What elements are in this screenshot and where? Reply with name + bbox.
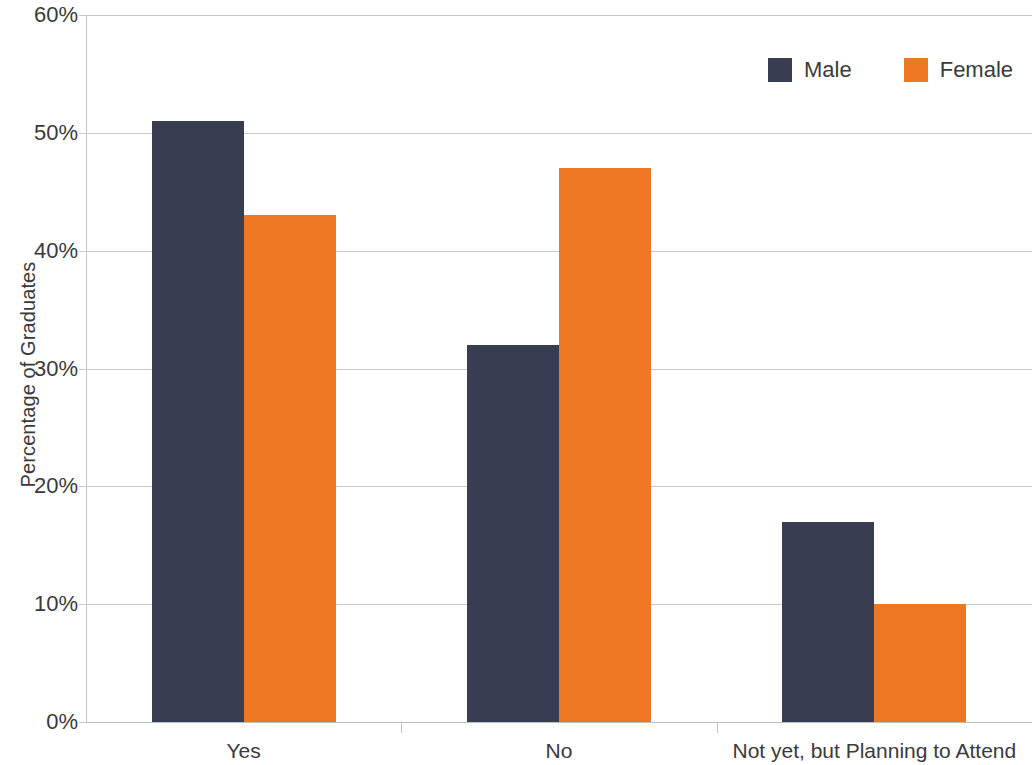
- plot-area: YesNoNot yet, but Planning to Attend: [86, 15, 1032, 722]
- bar-female-1: [559, 168, 651, 722]
- y-axis-tick-label: 40%: [4, 240, 78, 262]
- bar-male-1: [467, 345, 559, 722]
- y-axis-tick-mark: [79, 133, 86, 134]
- x-axis-category-tick: [401, 722, 402, 733]
- legend-item-male[interactable]: Male: [768, 58, 852, 82]
- bar-male-0: [152, 121, 244, 722]
- legend-label: Female: [940, 59, 1013, 81]
- bar-male-2: [782, 522, 874, 722]
- legend-swatch-icon: [904, 58, 928, 82]
- y-axis-tick-label: 30%: [4, 358, 78, 380]
- y-axis-tick-labels: 0%10%20%30%40%50%60%: [0, 0, 78, 755]
- gridline: [86, 15, 1032, 16]
- bar-female-2: [874, 604, 966, 722]
- y-axis-tick-mark: [79, 251, 86, 252]
- bar-female-0: [244, 215, 336, 722]
- y-axis-tick-label: 10%: [4, 593, 78, 615]
- legend-swatch-icon: [768, 58, 792, 82]
- legend-label: Male: [804, 59, 852, 81]
- y-axis-tick-mark: [79, 369, 86, 370]
- y-axis-tick-mark: [79, 722, 86, 723]
- y-axis-tick-label: 0%: [4, 711, 78, 733]
- y-axis-tick-label: 20%: [4, 475, 78, 497]
- y-axis-tick-mark: [79, 486, 86, 487]
- y-axis-tick-label: 60%: [4, 4, 78, 26]
- x-axis-category-tick: [717, 722, 718, 733]
- x-axis-category-label: Not yet, but Planning to Attend: [677, 737, 1032, 765]
- gridline: [86, 722, 1032, 723]
- y-axis-tick-mark: [79, 604, 86, 605]
- y-axis-tick-label: 50%: [4, 122, 78, 144]
- legend-item-female[interactable]: Female: [904, 58, 1013, 82]
- y-axis-tick-mark: [79, 15, 86, 16]
- chart-legend: MaleFemale: [768, 58, 1013, 82]
